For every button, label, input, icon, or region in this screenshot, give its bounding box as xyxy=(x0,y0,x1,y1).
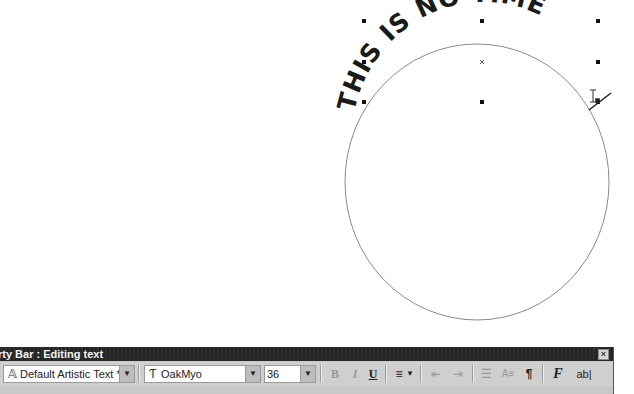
edit-text-icon: ab| xyxy=(576,368,591,380)
format-text-icon: F xyxy=(553,366,562,381)
underline-button[interactable]: U xyxy=(366,365,380,383)
chevron-down-icon[interactable]: ▼ xyxy=(245,366,260,382)
paragraph-button[interactable]: ¶ xyxy=(522,365,536,383)
circle-path[interactable] xyxy=(345,44,609,320)
separator xyxy=(420,365,422,383)
separator xyxy=(542,365,544,383)
outdent-icon: ⇥ xyxy=(453,367,463,381)
italic-button[interactable]: I xyxy=(348,365,362,383)
font-name-value: OakMyo xyxy=(161,368,202,380)
indent-icon: ⇤ xyxy=(431,367,441,381)
i-beam-cursor-icon xyxy=(590,90,596,102)
paragraph-icon: ¶ xyxy=(526,367,533,381)
drop-cap-icon: A≡ xyxy=(502,368,515,379)
font-size-value: 36 xyxy=(265,368,279,380)
separator xyxy=(385,365,387,383)
bullet-list-icon: ☰ xyxy=(481,367,492,381)
align-dropdown[interactable]: ▼ xyxy=(405,365,415,383)
artistic-text-style-icon: 𝔸 xyxy=(4,366,20,382)
canvas-drawing: THIS IS NO TIME xyxy=(0,0,634,346)
text-style-value: Default Artistic Text * xyxy=(20,368,121,380)
selection-center-marker xyxy=(480,60,484,64)
outdent-button[interactable]: ⇥ xyxy=(450,365,466,383)
drop-cap-button[interactable]: A≡ xyxy=(498,365,518,383)
font-name-combo[interactable]: ƬOakMyo ▼ xyxy=(144,365,261,383)
property-bar-titlebar[interactable]: rty Bar : Editing text × xyxy=(0,347,613,361)
align-icon: ≡ xyxy=(395,367,402,381)
separator xyxy=(320,365,322,383)
chevron-down-icon[interactable]: ▼ xyxy=(119,366,134,382)
separator xyxy=(472,365,474,383)
indent-button[interactable]: ⇤ xyxy=(428,365,444,383)
format-text-button[interactable]: F xyxy=(550,365,566,383)
close-icon: × xyxy=(601,349,606,359)
property-bar: rty Bar : Editing text × 𝔸Default Artist… xyxy=(0,347,614,394)
text-on-path[interactable]: THIS IS NO TIME xyxy=(332,0,551,114)
truetype-font-icon: Ƭ xyxy=(145,366,161,382)
text-toolbar: 𝔸Default Artistic Text * ▼ ƬOakMyo ▼ 36 … xyxy=(0,362,613,386)
font-size-combo[interactable]: 36 ▼ xyxy=(264,365,316,383)
bold-button[interactable]: B xyxy=(328,365,342,383)
align-button[interactable]: ≡ xyxy=(392,365,406,383)
edit-text-button[interactable]: ab| xyxy=(572,365,596,383)
bullet-button[interactable]: ☰ xyxy=(478,365,494,383)
chevron-down-icon: ▼ xyxy=(406,369,414,378)
separator xyxy=(138,365,140,383)
drawing-canvas[interactable]: THIS IS NO TIME xyxy=(0,0,634,346)
chevron-down-icon[interactable]: ▼ xyxy=(300,366,315,382)
text-style-combo[interactable]: 𝔸Default Artistic Text * ▼ xyxy=(3,365,135,383)
close-button[interactable]: × xyxy=(598,349,609,360)
property-bar-title: rty Bar : Editing text xyxy=(0,347,103,361)
